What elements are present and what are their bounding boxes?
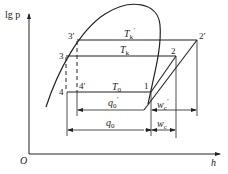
q0-label: q0 xyxy=(106,117,115,130)
q0-prime-label: q0′ xyxy=(108,95,119,110)
origin-label: O xyxy=(20,155,27,166)
point-2-label: 2 xyxy=(171,46,176,56)
point-3p-label: 3′ xyxy=(68,31,75,41)
dimension-arrows xyxy=(68,110,196,130)
cycle-lines xyxy=(66,40,197,138)
tk-label: Tk xyxy=(120,44,130,57)
point-1-label: 1 xyxy=(144,81,149,91)
y-axis-label: lg p xyxy=(5,9,20,20)
lgp-h-diagram: lg p O h 3′ 3 2′ 2 4 4′ 1 Tk′ Tk T0 q0′ … xyxy=(0,0,228,174)
tk-prime-label: Tk′ xyxy=(124,26,135,41)
point-4-label: 4 xyxy=(59,87,64,97)
point-3-label: 3 xyxy=(59,51,64,61)
throttling-lines xyxy=(66,41,77,92)
point-4p-label: 4′ xyxy=(79,81,86,91)
wc-label: wc xyxy=(157,118,167,131)
x-axis-label: h xyxy=(211,157,216,168)
point-2p-label: 2′ xyxy=(199,31,206,41)
